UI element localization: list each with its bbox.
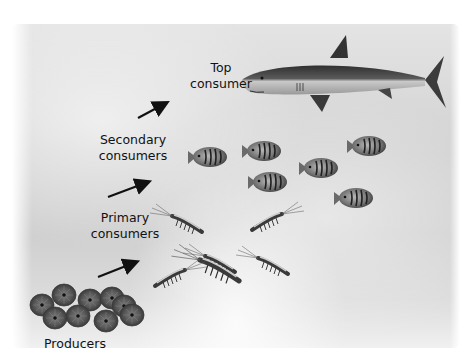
top-consumer-label: Top consumer [186,60,256,92]
producers-label: Producers [30,336,120,352]
krill-group-icon [150,202,304,288]
food-chain-illustration [0,0,475,361]
primary-consumers-label: Primary consumers [80,210,170,242]
diatoms-icon [30,284,144,332]
secondary-consumers-label: Secondary consumers [88,132,178,164]
fish-school-icon [188,136,386,208]
arrow-icon [108,182,148,197]
arrow-icon [138,103,166,118]
shark-icon [241,35,446,112]
arrow-icon [98,262,136,277]
